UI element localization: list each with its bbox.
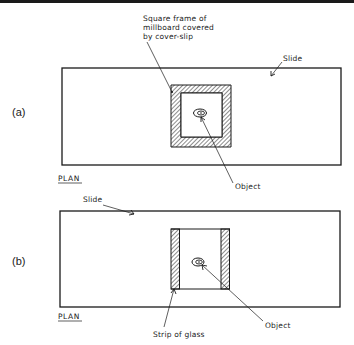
object-a-label: Object <box>235 182 261 191</box>
plan-a-label: PLAN <box>58 174 80 183</box>
slide-b-leader-line <box>103 205 134 214</box>
frame-leader-line <box>147 42 172 92</box>
panel-b: (b) Slide Strip of glass Object PLAN <box>12 195 340 339</box>
slide-b <box>60 211 340 307</box>
strip-leader-line <box>164 289 174 327</box>
object-b-leader-line <box>202 265 263 321</box>
plan-b-label: PLAN <box>58 312 80 321</box>
slide-a-label: Slide <box>283 54 302 63</box>
slide-b-label: Slide <box>83 195 102 204</box>
glass-strip-right <box>221 229 230 289</box>
frame-leader-dot <box>171 91 173 93</box>
panel-a: (a) Square frame of millboard covered by… <box>12 14 341 191</box>
glass-strip-left <box>171 229 180 289</box>
top-rule <box>0 0 354 3</box>
frame-label: Square frame of millboard covered by cov… <box>143 14 217 41</box>
diagram-canvas: (a) Square frame of millboard covered by… <box>0 0 354 345</box>
millboard-frame <box>171 85 231 147</box>
slide-a-leader-line <box>271 62 282 76</box>
object-b-label: Object <box>265 321 291 330</box>
panel-b-label: (b) <box>12 255 25 267</box>
strip-label: Strip of glass <box>153 330 205 339</box>
panel-a-label: (a) <box>12 106 25 118</box>
